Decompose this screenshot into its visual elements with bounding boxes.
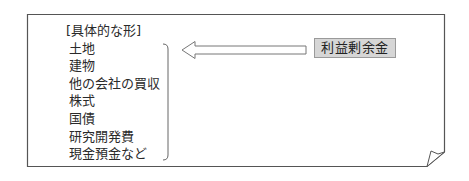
diagram-canvas: [具体的な形] 土地 建物 他の会社の買収 株式 国債 研究開発費 現金預金など… — [0, 0, 469, 181]
list-item: 土地 — [69, 40, 160, 58]
list-item: 国債 — [69, 110, 160, 128]
asset-form-list: [具体的な形] 土地 建物 他の会社の買収 株式 国債 研究開発費 現金預金など — [69, 22, 160, 163]
list-item: 他の会社の買収 — [69, 75, 160, 93]
list-item: 研究開発費 — [69, 128, 160, 146]
list-item: 株式 — [69, 92, 160, 110]
list-item: 建物 — [69, 57, 160, 75]
list-heading: [具体的な形] — [66, 22, 160, 40]
list-item: 現金預金など — [69, 145, 160, 163]
retained-earnings-box: 利益剰余金 — [314, 38, 396, 58]
